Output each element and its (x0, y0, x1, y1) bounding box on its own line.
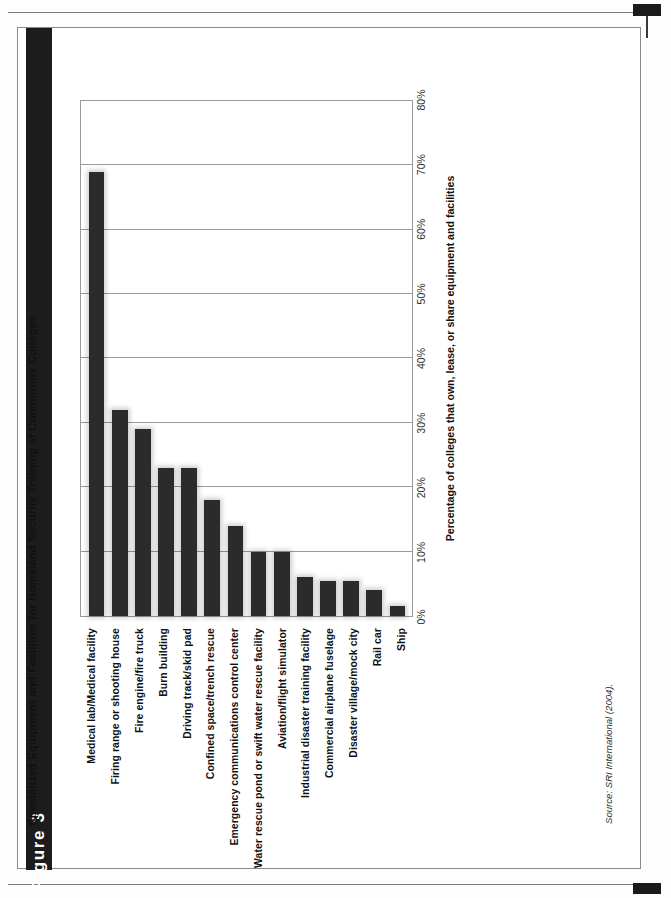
category-axis-labels: Medical lab/Medical facilityFiring range… (80, 621, 413, 851)
bar-slot (108, 101, 131, 616)
category-label-slot: Fire engine/fire truck (128, 621, 152, 851)
bottom-right-crop-mark (633, 883, 661, 894)
bar[interactable] (274, 552, 290, 616)
category-label-slot: Ship (389, 621, 413, 851)
value-axis-tick-label: 80% (415, 89, 427, 110)
bar[interactable] (320, 581, 336, 616)
bar[interactable] (158, 468, 174, 616)
bar-slot (131, 101, 154, 616)
category-label-slot: Medical lab/Medical facility (80, 621, 104, 851)
bar[interactable] (135, 429, 151, 616)
bar-series (81, 101, 412, 616)
value-axis-tick-label: 40% (415, 348, 427, 369)
bar[interactable] (89, 172, 105, 616)
bar-slot (247, 101, 270, 616)
value-axis-tick-label: 20% (415, 477, 427, 498)
value-axis-tick-label: 50% (415, 283, 427, 304)
category-axis-label: Confined space/trench rescue (205, 621, 216, 779)
category-label-slot: Emergency communications control center (223, 621, 247, 851)
category-axis-label: Driving track/skid pad (182, 621, 193, 739)
category-axis-label: Aviation/flight simulator (277, 621, 288, 749)
category-axis-label: Burn building (158, 621, 169, 697)
bar-slot (85, 101, 108, 616)
bar[interactable] (343, 581, 359, 616)
value-axis-title: Percentage of colleges that own, lease, … (444, 100, 456, 617)
category-label-slot: Burn building (151, 621, 175, 851)
value-axis-ticks: 0%10%20%30%40%50%60%70%80% (415, 100, 435, 617)
category-axis-label: Rail car (372, 621, 383, 666)
value-axis-tick-label: 30% (415, 413, 427, 434)
figure-frame: Figure 3 Specialized Equipment and Facil… (17, 27, 641, 869)
category-label-slot: Industrial disaster training facility (294, 621, 318, 851)
bar-chart: Medical lab/Medical facilityFiring range… (70, 46, 590, 851)
category-label-slot: Water rescue pond or swift water rescue … (246, 621, 270, 851)
value-axis-tick-label: 0% (415, 609, 427, 624)
category-label-slot: Commercial airplane fuselage (318, 621, 342, 851)
top-right-crop-tick (646, 16, 648, 38)
category-axis-label: Emergency communications control center (229, 621, 240, 846)
value-axis-tick-label: 60% (415, 219, 427, 240)
bar-slot (293, 101, 316, 616)
bar-slot (340, 101, 363, 616)
category-axis-label: Fire engine/fire truck (134, 621, 145, 733)
category-axis-label: Disaster village/mock city (348, 621, 359, 758)
category-axis-label: Ship (396, 621, 407, 651)
bar-slot (154, 101, 177, 616)
bottom-scan-rule (8, 884, 648, 885)
bar[interactable] (204, 500, 220, 616)
category-label-slot: Aviation/flight simulator (270, 621, 294, 851)
bar[interactable] (390, 606, 406, 616)
category-axis-label: Commercial airplane fuselage (324, 621, 335, 778)
bar[interactable] (297, 577, 313, 616)
bar-slot (270, 101, 293, 616)
top-scan-rule (8, 12, 648, 13)
category-axis-label: Medical lab/Medical facility (86, 621, 97, 764)
bar-slot (178, 101, 201, 616)
bar[interactable] (112, 410, 128, 616)
bar-slot (224, 101, 247, 616)
category-label-slot: Disaster village/mock city (342, 621, 366, 851)
category-label-slot: Confined space/trench rescue (199, 621, 223, 851)
plot-area (80, 100, 413, 617)
category-axis-label: Industrial disaster training facility (300, 621, 311, 798)
source-note: Source: SRI International (2004). (603, 684, 614, 824)
chart-rotation-wrapper: Medical lab/Medical facilityFiring range… (70, 46, 590, 851)
category-axis-label: Water rescue pond or swift water rescue … (253, 621, 264, 868)
value-axis-tick-label: 10% (415, 542, 427, 563)
category-label-slot: Rail car (365, 621, 389, 851)
bar[interactable] (228, 526, 244, 616)
category-axis-label: Firing range or shooting house (110, 621, 121, 785)
bar[interactable] (181, 468, 197, 616)
bar-slot (201, 101, 224, 616)
category-label-slot: Firing range or shooting house (104, 621, 128, 851)
value-axis-tick-label: 70% (415, 154, 427, 175)
bar[interactable] (251, 552, 267, 616)
top-right-crop-mark (633, 4, 661, 16)
scanned-page: Figure 3 Specialized Equipment and Facil… (0, 0, 671, 898)
figure-title: Specialized Equipment and Facilities for… (26, 316, 38, 826)
category-label-slot: Driving track/skid pad (175, 621, 199, 851)
bar[interactable] (366, 590, 382, 616)
bar-slot (386, 101, 409, 616)
bar-slot (316, 101, 339, 616)
bar-slot (363, 101, 386, 616)
